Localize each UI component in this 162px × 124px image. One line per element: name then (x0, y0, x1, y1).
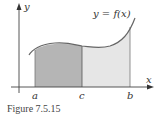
x-axis-arrow-icon (147, 85, 154, 90)
tick-label-a: a (32, 90, 38, 101)
curve-label: y = f(x) (92, 8, 131, 19)
region-c-to-b (82, 27, 130, 87)
region-a-to-c (35, 44, 82, 87)
figure-caption: Figure 7.5.15 (7, 103, 61, 114)
tick-label-c: c (79, 90, 85, 101)
y-axis-label: y (23, 1, 30, 12)
x-axis-label: x (146, 74, 152, 85)
y-axis-arrow-icon (17, 3, 22, 10)
tick-label-b: b (127, 90, 133, 101)
